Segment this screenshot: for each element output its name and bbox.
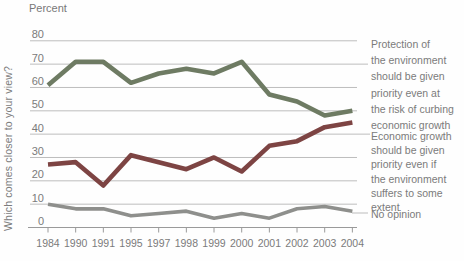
x-tick-label: 2001 — [258, 237, 282, 249]
y-tick-label: 60 — [32, 75, 44, 87]
x-tick-label: 1997 — [147, 237, 171, 249]
series-line-no-opinion — [48, 204, 352, 218]
series-label-economic-growth: Economic growth should be given priority… — [371, 129, 463, 214]
y-tick-label: 20 — [32, 168, 44, 180]
x-tick-label: 1999 — [202, 237, 226, 249]
x-tick-label: 2000 — [230, 237, 254, 249]
y-tick-label: 0 — [38, 215, 44, 227]
y-tick-label: 40 — [32, 122, 44, 134]
x-tick-label: 2002 — [285, 237, 309, 249]
x-tick-label: 1991 — [92, 237, 116, 249]
x-tick-label: 1998 — [175, 237, 199, 249]
y-tick-label: 70 — [32, 52, 44, 64]
y-tick-label: 10 — [32, 192, 44, 204]
y-tick-label: 30 — [32, 145, 44, 157]
x-tick-label: 2004 — [341, 237, 365, 249]
x-tick-label: 1990 — [64, 237, 88, 249]
x-tick-label: 2003 — [313, 237, 337, 249]
series-line-environment — [48, 62, 352, 116]
survey-trend-chart: Percent Which comes closer to your view?… — [0, 0, 464, 261]
series-label-environment: Protection of the environment should be … — [371, 36, 463, 133]
x-tick-label: 1984 — [36, 237, 60, 249]
y-tick-label: 50 — [32, 98, 44, 110]
series-line-economic-growth — [48, 122, 352, 185]
series-label-no-opinion: No opinion — [371, 207, 463, 221]
y-tick-label: 80 — [32, 28, 44, 40]
x-tick-label: 1995 — [119, 237, 143, 249]
